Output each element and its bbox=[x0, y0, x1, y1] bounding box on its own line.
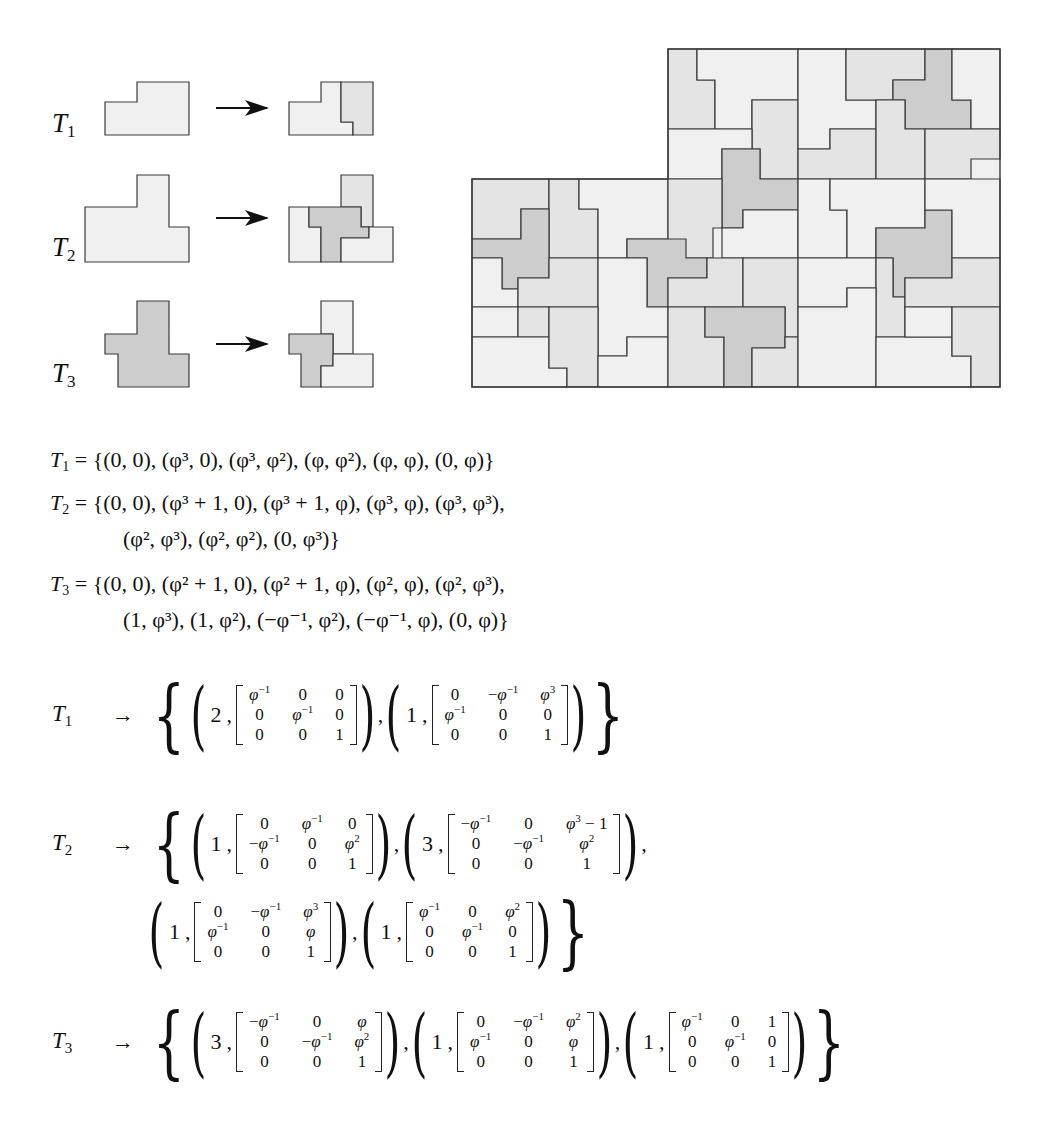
matrix-cell: 0 bbox=[513, 1052, 544, 1072]
matrix-cell: φ2 bbox=[345, 834, 360, 854]
comma: , bbox=[352, 919, 358, 945]
vertex-set-t2-continued: (φ², φ³), (φ², φ²), (0, φ³)} bbox=[123, 526, 340, 552]
right-brace: } bbox=[813, 1003, 845, 1081]
multiplicity-value: 1 bbox=[406, 702, 417, 728]
matrix-cell: 0 bbox=[207, 942, 228, 962]
matrix-cell: 1 bbox=[540, 725, 555, 745]
right-paren: ) bbox=[596, 1005, 612, 1079]
right-paren: ) bbox=[375, 807, 391, 881]
matrix-grid: −φ−10φ3 − 10−φ−1φ2001 bbox=[461, 814, 608, 874]
comma: , bbox=[185, 919, 191, 945]
matrix-cell: 0 bbox=[302, 834, 323, 854]
substitution-arrows bbox=[216, 108, 267, 344]
left-paren: ( bbox=[386, 678, 402, 752]
prototile-t2 bbox=[85, 175, 189, 262]
matrix-cell: φ2 bbox=[566, 1012, 581, 1032]
matrix-cell: 1 bbox=[303, 942, 318, 962]
left-bracket bbox=[448, 814, 455, 874]
left-bracket bbox=[194, 902, 201, 962]
vertex-set-t1-line-1: = {(0, 0), (φ³, 0), (φ³, φ²), (φ, φ²), (… bbox=[75, 447, 495, 472]
transform-matrix: φ−10φ20φ−10001 bbox=[406, 902, 533, 962]
left-paren: ( bbox=[148, 895, 164, 969]
matrix-cell: 0 bbox=[249, 1052, 280, 1072]
transform-matrix: 0−φ−1φ3φ−10φ001 bbox=[194, 902, 331, 962]
matrix-cell: 0 bbox=[249, 854, 280, 874]
comma: , bbox=[394, 831, 400, 857]
matrix-cell: 0 bbox=[470, 1012, 491, 1032]
matrix-cell: φ−1 bbox=[470, 1032, 491, 1052]
matrix-cell: 0 bbox=[419, 922, 440, 942]
matrix-cell: φ−1 bbox=[292, 705, 313, 725]
rule-t1: T1→{(2,φ−1000φ−10001),(1,0−φ−1φ3φ−100001… bbox=[52, 676, 629, 754]
prototile-t3 bbox=[105, 301, 189, 387]
matrix-cell: 0 bbox=[419, 942, 440, 962]
matrix-cell: 1 bbox=[768, 1052, 777, 1072]
comma: , bbox=[448, 1029, 454, 1055]
left-brace: { bbox=[153, 676, 185, 754]
right-bracket bbox=[324, 902, 331, 962]
matrix-cell: φ3 − 1 bbox=[566, 814, 608, 834]
tiling-tile bbox=[905, 307, 952, 337]
left-paren: ( bbox=[190, 807, 206, 881]
left-paren: ( bbox=[360, 895, 376, 969]
vertex-set-t3-continued: (1, φ³), (1, φ²), (−φ⁻¹, φ²), (−φ⁻¹, φ),… bbox=[123, 607, 509, 633]
matrix-cell: 1 bbox=[768, 1012, 777, 1032]
matrix-cell: φ−1 bbox=[462, 922, 483, 942]
multiplicity-value: 3 bbox=[422, 831, 433, 857]
matrix-cell: φ2 bbox=[566, 834, 608, 854]
vertex-set-t3: T3 = {(0, 0), (φ² + 1, 0), (φ² + 1, φ), … bbox=[50, 571, 505, 604]
multiplicity-value: 3 bbox=[211, 1029, 222, 1055]
matrix-cell: 0 bbox=[768, 1032, 777, 1052]
left-paren: ( bbox=[190, 678, 206, 752]
left-bracket bbox=[457, 1012, 464, 1072]
matrix-cell: 0 bbox=[251, 942, 282, 962]
matrix-cell: −φ−1 bbox=[249, 834, 280, 854]
right-paren: ) bbox=[536, 895, 552, 969]
multiplicity-value: 1 bbox=[432, 1029, 443, 1055]
matrix-grid: 0−φ−1φ2φ−10φ001 bbox=[470, 1012, 581, 1072]
matrix-cell: 0 bbox=[335, 705, 344, 725]
right-paren: ) bbox=[359, 678, 375, 752]
vertex-set-t3-line-1: = {(0, 0), (φ² + 1, 0), (φ² + 1, φ), (φ²… bbox=[75, 571, 505, 596]
right-bracket bbox=[782, 1012, 789, 1072]
matrix-cell: −φ−1 bbox=[513, 834, 544, 854]
matrix-cell: 1 bbox=[345, 854, 360, 874]
comma: , bbox=[227, 1029, 233, 1055]
matrix-cell: 0 bbox=[445, 685, 466, 705]
matrix-cell: −φ−1 bbox=[302, 1032, 333, 1052]
matrix-cell: 0 bbox=[462, 942, 483, 962]
transform-matrix: −φ−10φ0−φ−1φ2001 bbox=[236, 1012, 382, 1072]
comma: , bbox=[438, 831, 444, 857]
transform-matrix: −φ−10φ3 − 10−φ−1φ2001 bbox=[448, 814, 621, 874]
matrix-cell: 0 bbox=[302, 1012, 333, 1032]
matrix-cell: φ3 bbox=[540, 685, 555, 705]
maps-to-arrow-icon: → bbox=[98, 1029, 148, 1055]
multiplicity-value: 1 bbox=[169, 919, 180, 945]
matrix-cell: φ−1 bbox=[682, 1012, 703, 1032]
multiplicity-value: 1 bbox=[211, 831, 222, 857]
matrix-grid: φ−1000φ−10001 bbox=[249, 685, 344, 745]
maps-to-arrow-icon: → bbox=[98, 702, 148, 728]
matrix-cell: φ−1 bbox=[445, 705, 466, 725]
right-bracket bbox=[561, 685, 568, 745]
right-paren: ) bbox=[792, 1005, 808, 1079]
matrix-cell: −φ−1 bbox=[251, 902, 282, 922]
matrix-cell: 1 bbox=[354, 1052, 369, 1072]
rule-t2-line-2: (1,0−φ−1φ3φ−10φ001),(1,φ−10φ20φ−10001)} bbox=[148, 893, 594, 971]
tiling-tile bbox=[472, 307, 518, 337]
matrix-cell: 0 bbox=[513, 1032, 544, 1052]
matrix-cell: 0 bbox=[682, 1032, 703, 1052]
matrix-cell: 1 bbox=[566, 854, 608, 874]
right-paren: ) bbox=[385, 1005, 401, 1079]
matrix-grid: 0φ−10−φ−10φ2001 bbox=[249, 814, 360, 874]
matrix-cell: 0 bbox=[207, 902, 228, 922]
matrix-cell: 1 bbox=[505, 942, 520, 962]
matrix-cell: 0 bbox=[249, 705, 270, 725]
matrix-grid: −φ−10φ0−φ−1φ2001 bbox=[249, 1012, 369, 1072]
right-brace: } bbox=[592, 676, 624, 754]
matrix-cell: 0 bbox=[488, 725, 519, 745]
matrix-cell: 0 bbox=[725, 1052, 746, 1072]
left-paren: ( bbox=[623, 1005, 639, 1079]
matrix-cell: φ−1 bbox=[419, 902, 440, 922]
vertex-set-t2: T2 = {(0, 0), (φ³ + 1, 0), (φ³ + 1, φ), … bbox=[50, 490, 505, 523]
